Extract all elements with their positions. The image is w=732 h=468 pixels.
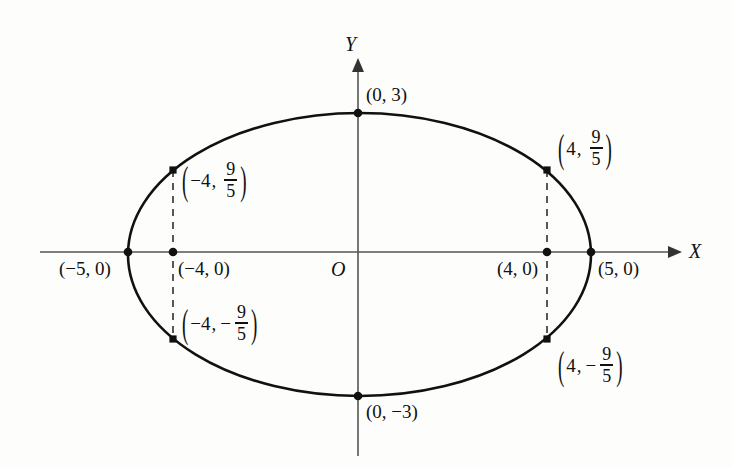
y-axis-arrow: [352, 58, 364, 72]
denominator: 5: [590, 150, 603, 168]
x-value: 4: [566, 356, 576, 375]
label-upper-right-fraction: ( 4 , 9 5 ): [556, 128, 614, 168]
origin-label: O: [331, 259, 345, 279]
label-right-vertex: (5, 0): [598, 259, 639, 278]
y-sign: −: [220, 314, 231, 333]
comma: ,: [212, 314, 217, 333]
ellipse-plot: [0, 0, 732, 468]
label-bottom-vertex: (0, −3): [366, 402, 418, 421]
label-right-foot: (4, 0): [497, 259, 538, 278]
coord-group: ( 4 , − 9 5 ): [556, 345, 625, 385]
point-lower-right: [543, 335, 550, 342]
x-value: −4: [190, 314, 210, 333]
y-axis-label: Y: [345, 34, 356, 54]
denominator: 5: [235, 325, 248, 343]
fraction: 9 5: [224, 160, 237, 200]
x-value: 4: [566, 139, 576, 158]
ellipse-curve: [128, 113, 591, 396]
numerator: 9: [600, 345, 613, 363]
open-paren: (: [558, 128, 564, 169]
coord-group: ( 4 , 9 5 ): [556, 128, 614, 168]
label-lower-left-fraction: ( −4 , − 9 5 ): [180, 303, 259, 343]
point-right-foot: [543, 248, 552, 257]
coord-group: ( −4 , − 9 5 ): [180, 303, 259, 343]
point-lower-left: [169, 335, 176, 342]
close-paren: ): [606, 128, 612, 169]
denominator: 5: [600, 367, 613, 385]
point-upper-right: [543, 166, 550, 173]
x-axis-label: X: [689, 241, 701, 261]
denominator: 5: [224, 182, 237, 200]
coord-group: ( −4 , 9 5 ): [180, 160, 249, 200]
numerator: 9: [224, 160, 237, 178]
comma: ,: [212, 171, 217, 190]
figure-canvas: Y X O (0, 3) (0, −3) (−5, 0) (5, 0) (−4,…: [0, 0, 732, 468]
label-left-vertex: (−5, 0): [59, 259, 111, 278]
point-left-vertex: [124, 248, 133, 257]
open-paren: (: [182, 160, 188, 201]
label-top-vertex: (0, 3): [366, 85, 407, 104]
open-paren: (: [558, 345, 564, 386]
open-paren: (: [182, 303, 188, 344]
label-upper-left-fraction: ( −4 , 9 5 ): [180, 160, 249, 200]
fraction: 9 5: [235, 303, 248, 343]
coord-body: 4 , 9 5: [566, 128, 603, 168]
close-paren: ): [251, 303, 257, 344]
coord-body: −4 , − 9 5: [190, 303, 249, 343]
x-axis-arrow: [668, 246, 682, 258]
numerator: 9: [590, 128, 603, 146]
close-paren: ): [240, 160, 246, 201]
fraction: 9 5: [590, 128, 603, 168]
point-right-vertex: [587, 248, 596, 257]
comma: ,: [577, 356, 582, 375]
close-paren: ): [616, 345, 622, 386]
label-lower-right-fraction: ( 4 , − 9 5 ): [556, 345, 625, 385]
point-left-foot: [169, 248, 178, 257]
y-sign: −: [586, 356, 597, 375]
x-value: −4: [190, 171, 210, 190]
coord-body: 4 , − 9 5: [566, 345, 614, 385]
point-upper-left: [169, 166, 176, 173]
fraction: 9 5: [600, 345, 613, 385]
comma: ,: [577, 139, 582, 158]
coord-body: −4 , 9 5: [190, 160, 238, 200]
point-top-vertex: [354, 109, 363, 118]
point-bottom-vertex: [354, 392, 363, 401]
label-left-foot: (−4, 0): [178, 259, 230, 278]
numerator: 9: [235, 303, 248, 321]
